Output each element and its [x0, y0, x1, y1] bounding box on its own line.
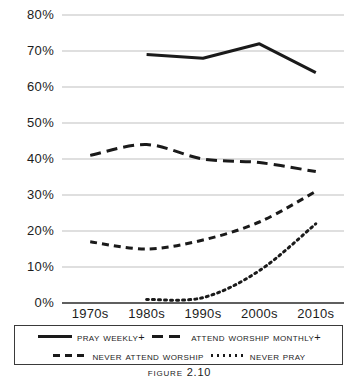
series-line-1 — [147, 44, 316, 73]
legend-entry: Never Pray — [211, 350, 306, 362]
y-tick-label: 10% — [2, 259, 54, 274]
y-tick-label: 70% — [2, 43, 54, 58]
y-tick-label: 30% — [2, 187, 54, 202]
x-tick-label: 2010s — [281, 306, 351, 321]
legend-row-1: Pray Weekly+Attend Worship Monthly+ — [15, 327, 344, 346]
chart-legend: Pray Weekly+Attend Worship Monthly+ Neve… — [14, 325, 343, 365]
chart-plot-area: 80%70%60%50%40%30%20%10%0% 1970s1980s199… — [0, 0, 359, 325]
y-tick-label: 60% — [2, 79, 54, 94]
series-line-2 — [90, 145, 316, 172]
legend-entry: Attend Worship Monthly+ — [152, 331, 321, 343]
legend-label: Attend Worship Monthly+ — [191, 331, 321, 343]
legend-entry: Never Attend Worship — [53, 350, 203, 362]
legend-label: Pray Weekly+ — [77, 331, 145, 343]
dashed-line-icon — [53, 354, 87, 357]
legend-entry: Pray Weekly+ — [38, 331, 145, 343]
figure-caption: Figure 2.10 — [0, 366, 359, 378]
y-tick-label: 40% — [2, 151, 54, 166]
solid-line-icon — [38, 335, 72, 338]
dotted-line-icon — [211, 354, 245, 357]
legend-label: Never Pray — [250, 350, 306, 362]
series-line-4 — [147, 224, 316, 300]
y-tick-label: 80% — [2, 7, 54, 22]
y-tick-label: 0% — [2, 295, 54, 310]
long-dash-line-icon — [152, 335, 186, 338]
series-line-3 — [90, 191, 316, 249]
y-tick-label: 50% — [2, 115, 54, 130]
legend-row-2: Never Attend WorshipNever Pray — [15, 346, 344, 365]
figure-2-10: 80%70%60%50%40%30%20%10%0% 1970s1980s199… — [0, 0, 359, 382]
y-tick-label: 20% — [2, 223, 54, 238]
legend-label: Never Attend Worship — [92, 350, 203, 362]
